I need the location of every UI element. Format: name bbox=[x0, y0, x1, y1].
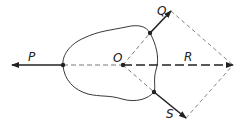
point-s-application bbox=[152, 90, 156, 94]
label-q: Q bbox=[157, 5, 166, 17]
point-q-application bbox=[148, 31, 152, 35]
label-r: R bbox=[184, 51, 192, 63]
force-diagram: P O Q R S bbox=[0, 0, 247, 126]
point-p-application bbox=[61, 63, 65, 67]
parallelogram-edge-s-r bbox=[186, 65, 233, 118]
s-line-of-action bbox=[123, 65, 154, 92]
q-line-of-action bbox=[123, 33, 150, 65]
rigid-body-outline bbox=[63, 26, 158, 101]
label-s: S bbox=[166, 108, 174, 120]
diagram-canvas bbox=[0, 0, 247, 126]
label-p: P bbox=[28, 51, 35, 63]
parallelogram-edge-q-r bbox=[171, 11, 233, 65]
label-o: O bbox=[113, 52, 122, 64]
